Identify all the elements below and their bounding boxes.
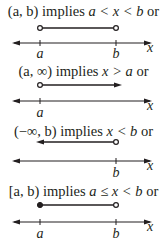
axis-variable-label: x — [146, 219, 154, 234]
left-arrow-icon — [12, 159, 20, 164]
open-endpoint-icon — [114, 203, 119, 208]
panel-half-open-interval: [a, b) implies a ≤ x < b or a b x — [0, 180, 167, 240]
closed-endpoint-icon — [37, 202, 42, 207]
number-line-graph: a x — [0, 60, 167, 120]
axis-variable-label: x — [146, 40, 154, 55]
tick-label: a — [37, 226, 44, 240]
left-arrow-icon — [12, 41, 20, 46]
axis-variable-label: x — [146, 98, 154, 113]
open-endpoint-icon — [38, 83, 43, 88]
left-arrow-icon — [12, 220, 20, 225]
tick-label: a — [37, 46, 44, 61]
ray-arrow-left-icon — [36, 140, 44, 145]
panel-left-unbounded: (−∞, b) implies x < b or b x — [0, 120, 167, 180]
axis-variable-label: x — [146, 158, 154, 173]
number-line-graph: a b x — [0, 180, 167, 240]
ray-arrow-right-icon — [114, 83, 122, 88]
tick-label: b — [113, 46, 120, 61]
tick-label: a — [37, 105, 44, 120]
open-endpoint-icon — [38, 26, 43, 31]
number-line-graph: a b x — [0, 0, 167, 60]
open-endpoint-icon — [114, 140, 119, 145]
tick-label: b — [113, 165, 120, 180]
number-line-graph: b x — [0, 120, 167, 180]
open-endpoint-icon — [114, 26, 119, 31]
panel-open-interval: (a, b) implies a < x < b or a b x — [0, 0, 167, 60]
left-arrow-icon — [12, 99, 20, 104]
tick-label: b — [113, 226, 120, 240]
panel-right-unbounded: (a, ∞) implies x > a or a x — [0, 60, 167, 120]
